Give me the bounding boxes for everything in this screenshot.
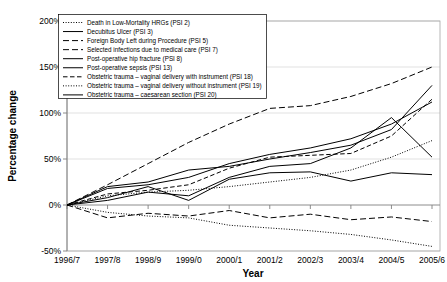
y-axis-tick-label: 150%: [39, 62, 61, 72]
x-axis-tick-label: 2004/5: [378, 255, 404, 265]
legend-label-psi-3: Decubitus Ulcer (PSI 3): [87, 28, 153, 36]
x-axis-ticks: [67, 205, 432, 209]
x-axis-tick-label: 2001/2: [257, 255, 283, 265]
y-axis-title: Percentage change: [7, 90, 18, 182]
legend-label-psi-18: Obstetric trauma – vaginal delivery with…: [87, 73, 253, 81]
legend-label-psi-8: Post-operative hip fracture (PSI 8): [87, 55, 182, 63]
legend-label-psi-2: Death in Low-Mortality HRGs (PSI 2): [87, 19, 190, 27]
legend-label-psi-19: Obstetric trauma – vaginal delivery with…: [87, 82, 262, 90]
chart-container: 200%150%100%50%0%-50% 1996/71997/81998/9…: [0, 0, 447, 282]
y-axis-tick-label: 50%: [44, 154, 61, 164]
series-line-psi-20: [67, 172, 432, 205]
series-line-psi-8: [67, 118, 432, 205]
x-axis-tick-labels: 1996/71997/81998/91999/02000/12001/22002…: [54, 255, 445, 265]
y-axis-tick-label: 100%: [39, 108, 61, 118]
x-axis-tick-label: 2003/4: [338, 255, 364, 265]
legend-label-psi-13: Post-operative sepsis (PSI 13): [87, 64, 172, 72]
legend-label-psi-7: Selected infections due to medical care …: [87, 46, 218, 54]
series-line-psi-3: [67, 102, 432, 205]
x-axis-title: Year: [242, 268, 263, 279]
series-line-psi-2: [67, 205, 432, 246]
x-axis-tick-label: 2000/1: [216, 255, 242, 265]
line-chart: 200%150%100%50%0%-50% 1996/71997/81998/9…: [0, 0, 447, 282]
x-axis-tick-label: 2005/6: [419, 255, 445, 265]
legend-label-psi-5: Foreign Body Left during Procedure (PSI …: [87, 37, 208, 45]
x-axis-tick-label: 1998/9: [135, 255, 161, 265]
x-axis-tick-label: 1996/7: [54, 255, 80, 265]
series-line-psi-19: [67, 141, 432, 205]
x-axis-tick-label: 1997/8: [95, 255, 121, 265]
legend-label-psi-20: Obstetric trauma – caesarean section (PS…: [87, 91, 217, 99]
y-axis-tick-label: 0%: [49, 200, 62, 210]
y-axis-tick-label: 200%: [39, 16, 61, 26]
series-line-psi-18: [67, 99, 432, 205]
chart-legend: Death in Low-Mortality HRGs (PSI 2)Decub…: [59, 15, 267, 100]
x-axis-tick-label: 2002/3: [297, 255, 323, 265]
y-axis-tick-labels: 200%150%100%50%0%-50%: [39, 16, 61, 256]
x-axis-tick-label: 1999/0: [176, 255, 202, 265]
